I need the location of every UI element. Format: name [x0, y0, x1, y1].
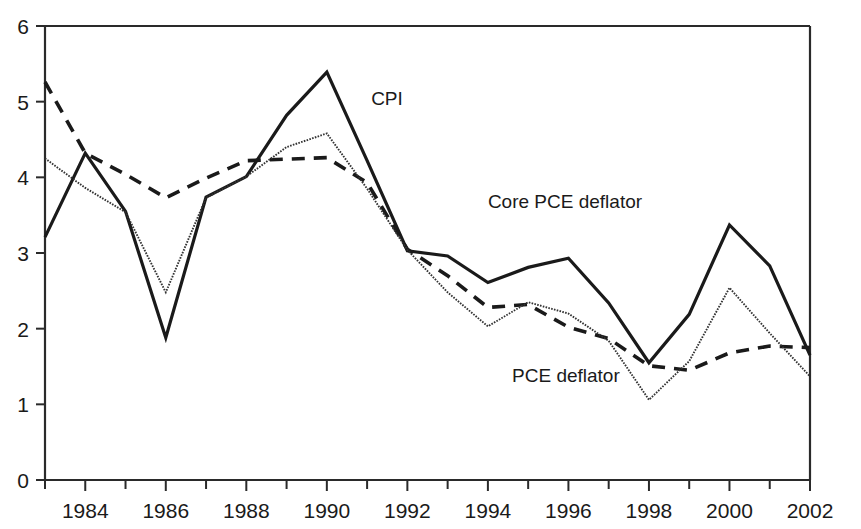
x-axis-ticks: [45, 480, 810, 491]
series-label-pce-deflator: PCE deflator: [512, 365, 620, 386]
series-line-core-pce-deflator: [45, 82, 810, 370]
chart-canvas: 0123456 19841986198819901992199419961998…: [0, 0, 861, 529]
y-tick-label: 0: [17, 469, 29, 492]
series-line-pce-deflator: [45, 133, 810, 399]
series-label-cpi: CPI: [371, 88, 403, 109]
y-tick-label: 5: [17, 91, 29, 114]
x-tick-label: 1998: [626, 499, 673, 522]
y-tick-label: 3: [17, 242, 29, 265]
x-tick-label: 2000: [706, 499, 753, 522]
series-paths-group: [45, 72, 810, 400]
x-tick-label: 2002: [787, 499, 834, 522]
y-axis-ticks: [36, 26, 45, 480]
x-tick-label: 1994: [465, 499, 512, 522]
series-line-cpi: [45, 72, 810, 363]
price-index-line-chart: 0123456 19841986198819901992199419961998…: [0, 0, 861, 529]
x-tick-label: 1986: [142, 499, 189, 522]
x-tick-label: 1988: [223, 499, 270, 522]
series-annotation-labels: CPICore PCE deflatorPCE deflator: [371, 88, 643, 385]
y-tick-label: 2: [17, 318, 29, 341]
x-tick-label: 1992: [384, 499, 431, 522]
y-tick-label: 4: [17, 166, 29, 189]
y-tick-label: 6: [17, 15, 29, 38]
y-tick-label: 1: [17, 393, 29, 416]
series-label-core-pce-deflator: Core PCE deflator: [488, 191, 643, 212]
x-tick-label: 1996: [545, 499, 592, 522]
x-axis-tick-labels: 1984198619881990199219941996199820002002: [62, 499, 833, 522]
y-axis-tick-labels: 0123456: [17, 15, 29, 492]
x-tick-label: 1984: [62, 499, 109, 522]
x-tick-label: 1990: [303, 499, 350, 522]
